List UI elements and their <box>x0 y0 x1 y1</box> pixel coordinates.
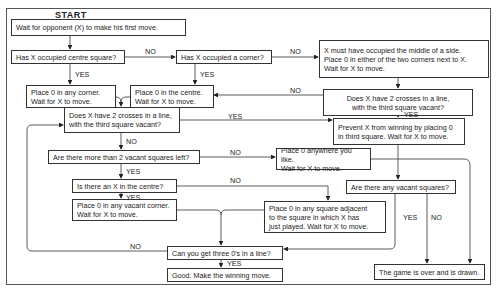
label-yes: YES <box>227 259 241 268</box>
label-no: NO <box>145 47 156 56</box>
middle-side-box: X must have occupied the middle of a sid… <box>319 40 489 78</box>
label-no: NO <box>290 86 301 95</box>
x-in-centre-decision: Is there an X in the centre? <box>72 179 177 193</box>
label-yes: YES <box>126 193 140 202</box>
label-no: NO <box>431 213 442 222</box>
label-no: NO <box>230 176 241 185</box>
label-no: NO <box>130 242 141 251</box>
place-vacant-corner-box: Place 0 in any vacant corner. Wait for X… <box>72 199 177 221</box>
corner-occupied-decision: Has X occupied a corner? <box>176 50 272 64</box>
two-crosses-decision-right: Does X have 2 crosses in a line, with th… <box>323 89 473 116</box>
label-no: NO <box>126 137 137 146</box>
label-yes: YES <box>403 213 417 222</box>
place-adjacent-box: Place 0 in any square adjacent to the sq… <box>264 201 386 233</box>
prevent-win-box: Prevent X from winning by placing 0 in t… <box>333 118 465 145</box>
any-vacant-decision: Are there any vacant squares? <box>346 180 456 194</box>
winning-move-box: Good. Make the winning move. <box>167 268 283 282</box>
place-centre-box: Place 0 in the centre. Wait for X to mov… <box>130 85 214 108</box>
label-yes: YES <box>228 112 242 121</box>
centre-occupied-decision: Has X occupied centre square? <box>11 50 125 64</box>
two-crosses-decision-left: Does X have 2 crosses in a line, with th… <box>64 107 180 133</box>
place-anywhere-box: Place 0 anywhere you like. Wait for X to… <box>276 148 371 170</box>
label-yes: YES <box>75 70 89 79</box>
label-yes: YES <box>404 110 418 119</box>
wait-first-move-box: Wait for opponent (X) to make his first … <box>11 19 186 36</box>
label-no: NO <box>230 148 241 157</box>
three-in-line-decision: Can you get three 0's in a line? <box>167 246 283 260</box>
label-yes: YES <box>200 70 214 79</box>
label-no: NO <box>290 47 301 56</box>
label-yes: YES <box>126 167 140 176</box>
more-than-two-vacant-decision: Are there more than 2 vacant squares lef… <box>48 150 200 164</box>
place-any-corner-box: Place 0 in any corner. Wait for X to mov… <box>26 85 116 108</box>
game-drawn-box: The game is over and is drawn. <box>374 264 485 280</box>
